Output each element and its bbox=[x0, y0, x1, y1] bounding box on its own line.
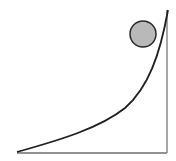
ball bbox=[130, 21, 156, 47]
ramp-diagram: Ball on curved ramp bbox=[0, 0, 176, 161]
diagram-svg bbox=[0, 0, 176, 161]
